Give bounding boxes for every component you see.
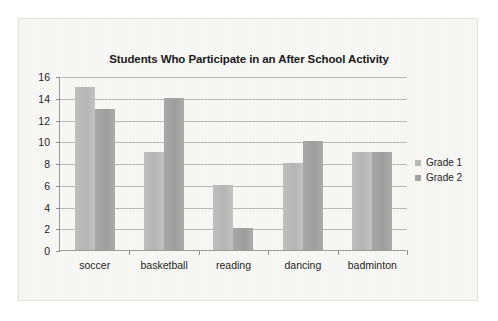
y-tick-label: 2 [44, 223, 50, 235]
chart-legend: Grade 1Grade 2 [415, 157, 479, 187]
bar [95, 109, 115, 250]
plot-area: 0246810121416 soccerbasketballreadingdan… [59, 77, 406, 251]
plot-wrapper: 0246810121416 soccerbasketballreadingdan… [59, 77, 406, 251]
legend-item[interactable]: Grade 1 [415, 157, 479, 168]
y-tick-label: 16 [38, 71, 50, 83]
x-tick-mark [407, 250, 408, 255]
bar [283, 163, 303, 250]
bar [352, 152, 372, 250]
x-tick-label: soccer [79, 259, 110, 271]
bar [303, 141, 323, 250]
x-tick-mark [199, 250, 200, 255]
legend-label: Grade 1 [426, 157, 462, 168]
y-tick-label: 10 [38, 136, 50, 148]
x-tick-label: basketball [140, 259, 187, 271]
bar [372, 152, 392, 250]
legend-label: Grade 2 [426, 172, 462, 183]
legend-swatch-icon [415, 160, 421, 166]
legend-item[interactable]: Grade 2 [415, 172, 479, 183]
bar-group [338, 77, 407, 250]
y-tick-mark [56, 251, 60, 252]
bar [144, 152, 164, 250]
y-tick-label: 6 [44, 180, 50, 192]
chart-title: Students Who Participate in an After Sch… [19, 53, 479, 65]
chart-card: Students Who Participate in an After Sch… [18, 18, 478, 301]
bar-group [199, 77, 268, 250]
bar [164, 98, 184, 250]
x-tick-mark [129, 250, 130, 255]
x-tick-label: reading [216, 259, 251, 271]
bar-group [60, 77, 129, 250]
legend-swatch-icon [415, 175, 421, 181]
x-tick-label: dancing [285, 259, 322, 271]
bar-group [129, 77, 198, 250]
x-tick-label: badminton [348, 259, 397, 271]
y-tick-label: 0 [44, 245, 50, 257]
y-tick-label: 14 [38, 93, 50, 105]
y-tick-label: 12 [38, 115, 50, 127]
bar-group [268, 77, 337, 250]
bar [75, 87, 95, 250]
bar [213, 185, 233, 250]
bar [233, 228, 253, 250]
y-tick-label: 8 [44, 158, 50, 170]
x-tick-mark [268, 250, 269, 255]
y-tick-label: 4 [44, 202, 50, 214]
x-tick-mark [338, 250, 339, 255]
